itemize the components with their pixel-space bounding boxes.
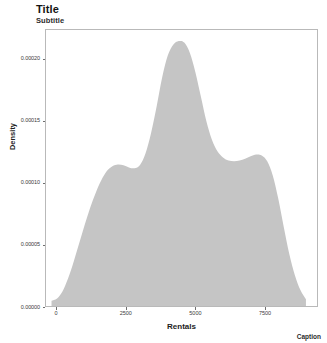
y-axis-title: Density	[8, 107, 17, 167]
x-tick-label: 0	[55, 310, 58, 316]
y-tick-label: 0.00010	[21, 179, 40, 185]
density-chart-figure: Title Subtitle Density 0.000000.000050.0…	[0, 0, 327, 343]
x-tick-label: 7500	[259, 310, 271, 316]
y-tick-label: 0.00000	[21, 304, 40, 310]
chart-subtitle: Subtitle	[36, 16, 316, 26]
x-tick-mark	[265, 307, 266, 310]
x-tick-label: 5000	[189, 310, 201, 316]
title-block: Title Subtitle	[36, 3, 316, 26]
x-tick-label: 2500	[120, 310, 132, 316]
x-tick-mark	[195, 307, 196, 310]
plot-panel	[45, 29, 318, 307]
y-tick-label: 0.00005	[21, 241, 40, 247]
y-tick-label: 0.00020	[21, 55, 40, 61]
x-tick-mark	[56, 307, 57, 310]
density-area-plot	[46, 30, 317, 306]
y-tick-label: 0.00015	[21, 117, 40, 123]
x-axis-title: Rentals	[45, 322, 318, 331]
y-tick-mark	[43, 307, 46, 308]
density-area-path	[52, 41, 306, 306]
x-tick-mark	[126, 307, 127, 310]
chart-caption: Caption	[297, 333, 321, 340]
chart-title: Title	[36, 3, 316, 16]
